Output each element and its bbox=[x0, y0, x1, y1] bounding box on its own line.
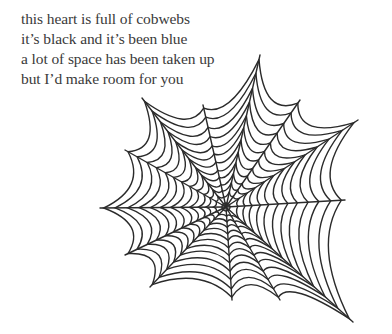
web-rings bbox=[104, 60, 354, 319]
spiderweb-icon bbox=[0, 0, 392, 334]
